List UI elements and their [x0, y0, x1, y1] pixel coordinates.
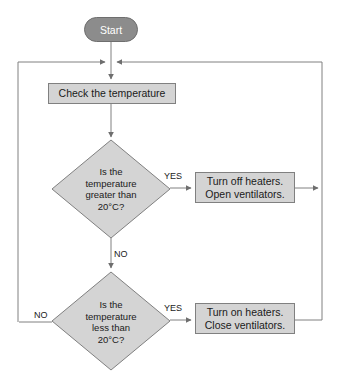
connector-actioncold-to-rail — [295, 318, 322, 320]
flowchart-connectors-and-shapes — [0, 0, 339, 381]
decision-diamond-temperature-greater — [52, 140, 170, 238]
decision-diamond-temperature-less — [52, 272, 170, 370]
flowchart-diagram: Start Check the temperature Is the tempe… — [0, 0, 339, 381]
